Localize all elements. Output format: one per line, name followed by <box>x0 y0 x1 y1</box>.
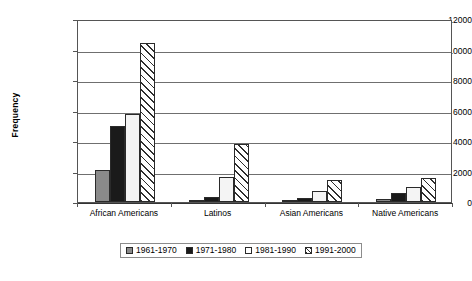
x-tick-mark <box>265 203 266 207</box>
legend-swatch-icon <box>186 247 193 254</box>
bar <box>312 191 327 202</box>
bar <box>189 200 204 202</box>
x-tick-label: Latinos <box>171 208 265 218</box>
bar <box>282 200 297 202</box>
bar-group <box>78 21 172 202</box>
bar <box>327 180 342 202</box>
legend-item-1971-1980: 1971-1980 <box>186 246 237 255</box>
bar-group <box>359 21 453 202</box>
x-tick-label: African Americans <box>77 208 171 218</box>
x-tick-mark <box>452 203 453 207</box>
legend-label: 1971-1980 <box>196 246 237 255</box>
legend-item-1991-2000: 1991-2000 <box>305 246 356 255</box>
bar <box>204 197 219 202</box>
bar <box>234 144 249 202</box>
bar <box>125 114 140 202</box>
bar <box>140 43 155 202</box>
bar <box>406 187 421 202</box>
legend-label: 1981-1990 <box>255 246 296 255</box>
x-tick-mark <box>171 203 172 207</box>
bar-group <box>172 21 266 202</box>
bar <box>95 170 110 202</box>
bar <box>219 177 234 202</box>
x-tick-mark <box>77 203 78 207</box>
bar <box>421 178 436 202</box>
bar <box>297 198 312 202</box>
bar <box>376 199 391 203</box>
bar <box>110 126 125 202</box>
plot-area <box>77 20 452 203</box>
bar-chart: Frequency 120001000080006000400020000 Af… <box>0 0 472 281</box>
legend-swatch-icon <box>305 247 312 254</box>
legend-swatch-icon <box>126 247 133 254</box>
bar-group <box>266 21 360 202</box>
x-tick-label: Asian Americans <box>265 208 359 218</box>
y-axis-title: Frequency <box>10 60 20 170</box>
legend-swatch-icon <box>245 247 252 254</box>
x-tick-label: Native Americans <box>358 208 452 218</box>
chart-legend: 1961-1970 1971-1980 1981-1990 1991-2000 <box>120 243 362 258</box>
legend-item-1961-1970: 1961-1970 <box>126 246 177 255</box>
legend-label: 1991-2000 <box>315 246 356 255</box>
legend-item-1981-1990: 1981-1990 <box>245 246 296 255</box>
bar <box>391 193 406 202</box>
legend-label: 1961-1970 <box>136 246 177 255</box>
x-tick-mark <box>358 203 359 207</box>
